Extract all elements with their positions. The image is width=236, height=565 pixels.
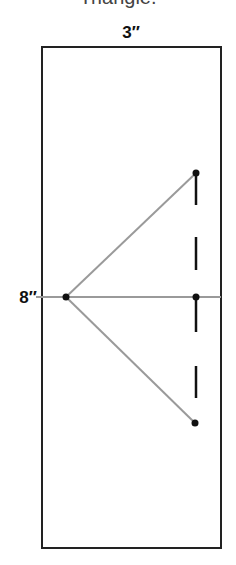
width-label: 3″	[122, 23, 140, 42]
height-label: 8″	[19, 288, 37, 307]
mid-right-point	[193, 294, 200, 301]
top-right-point	[193, 170, 200, 177]
bottom-right-point	[192, 420, 199, 427]
lower-diagonal-line	[66, 297, 195, 423]
apex-point	[63, 294, 70, 301]
template-diagram: 3″ 8″	[0, 0, 236, 565]
upper-diagonal-line	[66, 173, 196, 297]
